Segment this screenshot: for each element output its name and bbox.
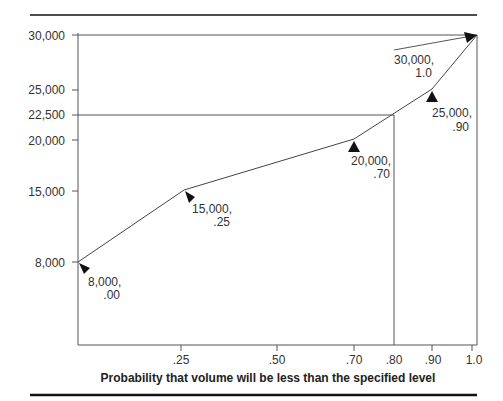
- y-tick-label: 25,000: [28, 83, 65, 97]
- arrow-icon: [79, 263, 90, 274]
- x-tick-label: .70: [346, 353, 363, 367]
- annotation-label: 30,000,: [394, 53, 434, 67]
- annotation-label: .25: [213, 215, 230, 229]
- y-tick-labels: 30,000 25,000 22,500 20,000 15,000 8,000: [28, 29, 65, 270]
- annotation-label: 25,000,: [432, 106, 472, 120]
- y-tick-label: 8,000: [35, 256, 65, 270]
- x-tick-label: .90: [425, 353, 442, 367]
- arrow-icon: [348, 141, 360, 152]
- chart-canvas: 30,000 25,000 22,500 20,000 15,000 8,000…: [0, 0, 503, 401]
- y-tick-label: 30,000: [28, 29, 65, 43]
- annotation-label: .70: [373, 167, 390, 181]
- x-tick-labels: .25 .50 .70 .80 .90 1.0: [173, 353, 483, 367]
- y-tick-label: 22,500: [28, 108, 65, 122]
- x-tick-label: .80: [386, 353, 403, 367]
- y-tick-label: 20,000: [28, 134, 65, 148]
- annotation-label: 8,000,: [88, 275, 121, 289]
- arrow-icon: [426, 91, 438, 102]
- x-tick-label: .50: [269, 353, 286, 367]
- annotation-label: .90: [452, 120, 469, 134]
- y-ticks: [72, 90, 78, 262]
- annotation-label: 20,000,: [351, 154, 391, 168]
- annotation-label: 15,000,: [192, 202, 232, 216]
- x-ticks: [181, 345, 472, 351]
- annotation-label: .00: [103, 288, 120, 302]
- x-axis-title: Probability that volume will be less tha…: [101, 371, 436, 385]
- annotation-labels: 8,000, .00 15,000, .25 20,000, .70 25,00…: [88, 53, 472, 302]
- y-tick-label: 15,000: [28, 185, 65, 199]
- x-tick-label: .25: [173, 353, 190, 367]
- x-tick-label: 1.0: [466, 353, 483, 367]
- annotation-label: 1.0: [415, 66, 432, 80]
